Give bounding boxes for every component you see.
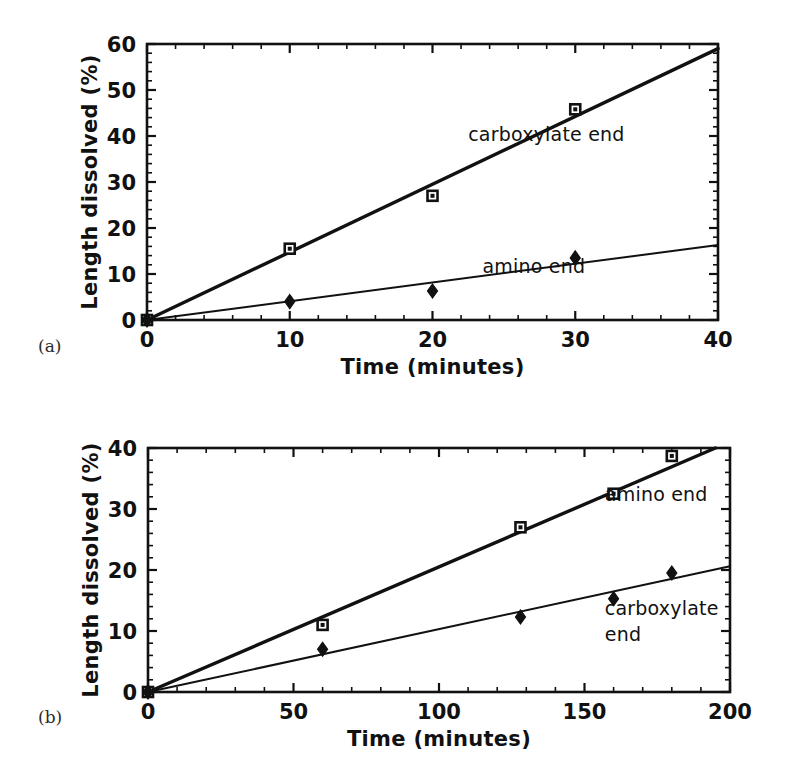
y-axis-tick-label: 10 [108,620,137,644]
x-axis-title: Time (minutes) [347,727,531,751]
trend-line-carboxylate-end [148,566,730,692]
y-axis-tick-label: 0 [121,309,136,333]
y-axis-tick-label: 50 [107,79,136,103]
chart-b-svg: 050100150200010203040Time (minutes)Lengt… [0,385,788,775]
series-label-amino-end: amino end [482,255,585,277]
x-axis-tick-label: 200 [708,700,752,724]
data-point-amino-end-core [670,454,674,458]
x-axis-tick-label: 150 [563,700,607,724]
chart-panel-b: (b) 050100150200010203040Time (minutes)L… [0,385,788,775]
data-point-amino-end-core [321,623,325,627]
panel-b-tag: (b) [38,707,62,727]
data-point-carboxylate-end-core [573,107,577,111]
chart-panel-a: (a) 0102030400102030405060Time (minutes)… [0,0,788,390]
x-axis-tick-label: 0 [141,700,156,724]
data-point-amino-end [285,295,295,309]
data-point-amino-end-core [518,525,522,529]
series-label-amino-end: amino end [605,483,708,505]
x-axis-tick-label: 0 [140,328,155,352]
y-axis-title: Length dissolved (%) [78,54,102,309]
series-label-carboxylate-end: carboxylate end [468,123,624,145]
chart-a-svg: 0102030400102030405060Time (minutes)Leng… [0,0,788,390]
data-point-carboxylate-end-core [288,247,292,251]
y-axis-tick-label: 30 [107,171,136,195]
x-axis-tick-label: 10 [275,328,304,352]
data-point-carboxylate-end-core [431,194,435,198]
y-axis-tick-label: 60 [107,33,136,57]
y-axis-tick-label: 20 [107,217,136,241]
trend-line-carboxylate-end [147,49,718,320]
trend-line-amino-end [147,245,718,320]
x-axis-tick-label: 30 [561,328,590,352]
x-axis-title: Time (minutes) [340,355,524,379]
y-axis-tick-label: 10 [107,263,136,287]
y-axis-tick-label: 40 [108,437,137,461]
y-axis-title: Length dissolved (%) [79,442,103,697]
series-label-carboxylate-end-line2: end [605,623,641,645]
y-axis-tick-label: 0 [122,681,137,705]
x-axis-tick-label: 100 [417,700,461,724]
figure-container: (a) 0102030400102030405060Time (minutes)… [0,0,788,775]
x-axis-tick-label: 20 [418,328,447,352]
y-axis-tick-label: 30 [108,498,137,522]
y-axis-tick-label: 40 [107,125,136,149]
data-point-amino-end [428,284,438,298]
series-label-carboxylate-end: carboxylate [605,597,719,619]
x-axis-tick-label: 40 [703,328,732,352]
panel-a-tag: (a) [38,336,61,356]
y-axis-tick-label: 20 [108,559,137,583]
x-axis-tick-label: 50 [279,700,308,724]
